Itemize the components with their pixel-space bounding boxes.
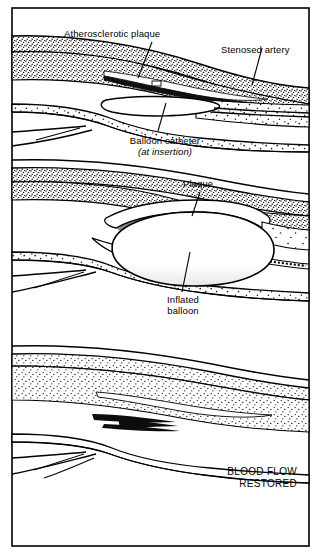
label-inflated-balloon-line2: balloon [137,305,229,316]
panel-inflation [12,168,309,380]
angioplasty-figure: Atherosclerotic plaque Stenosed artery B… [0,0,321,554]
deflated-balloon-p1 [101,96,219,115]
label-inflated-balloon-line1: Inflated [137,294,229,305]
label-atherosclerotic-plaque: Atherosclerotic plaque [64,28,160,39]
branch-lower-line-p1 [12,130,92,146]
label-balloon-catheter-sub: (at insertion) [106,146,224,157]
label-blood-flow-line2: RESTORED [182,478,297,490]
label-plaque: Plaque [183,178,213,189]
catheter-marker-p1 [152,81,161,86]
label-blood-flow-line1: BLOOD FLOW [182,466,297,478]
inflated-balloon-p2 [112,212,274,286]
balloon-neck-left-p2 [92,238,112,252]
label-stenosed-artery: Stenosed artery [221,44,290,55]
label-balloon-catheter: Balloon catheter [106,135,224,146]
